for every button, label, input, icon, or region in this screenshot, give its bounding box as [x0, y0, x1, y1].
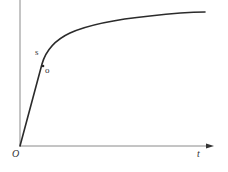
point-s-label: s	[35, 47, 39, 57]
x-axis-arrow-icon	[206, 144, 214, 149]
point-o-marker	[42, 65, 45, 68]
x-axis-label: t	[197, 148, 200, 159]
point-o-label: o	[45, 65, 50, 75]
strain-time-diagram: O t s o	[0, 0, 228, 172]
curve-line	[20, 12, 205, 146]
origin-label: O	[12, 148, 19, 159]
